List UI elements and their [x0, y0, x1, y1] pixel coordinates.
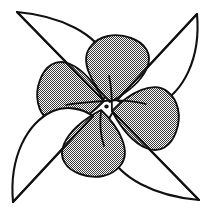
pinwheel-drawing — [0, 0, 211, 215]
center-pin-icon — [104, 105, 108, 109]
pinwheel-figure — [0, 0, 211, 215]
